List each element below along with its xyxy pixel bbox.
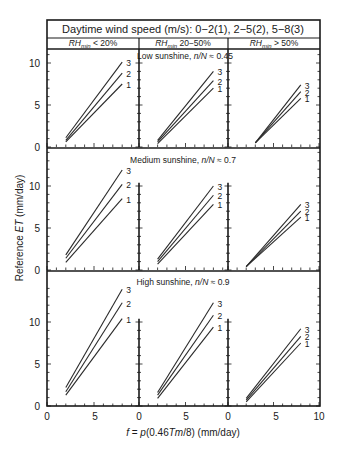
wind-series-line-3 [158,303,214,393]
y-tick-label: 0 [34,142,40,153]
wind-series-line-1 [66,84,122,142]
series-label: 1 [217,200,222,210]
column-header-rh-mid: RHmin 20−50% [155,38,211,49]
series-label: 1 [126,80,131,90]
y-tick-label: 5 [34,223,40,234]
y-tick-label: 0 [34,265,40,276]
wind-series-line-3 [255,85,300,143]
column-header-rh-low: RHmin < 20% [69,38,118,49]
x-tick-label: 0 [44,411,50,422]
wind-series-line-2 [66,303,122,392]
wind-series-line-1 [66,199,122,263]
series-label: 3 [305,81,310,91]
series-label: 3 [305,200,310,210]
x-tick-label: 5 [273,411,279,422]
series-label: 3 [217,67,222,77]
wind-series-line-2 [246,336,301,400]
wind-series-line-1 [158,327,214,398]
wind-series-line-1 [158,204,214,264]
column-header-rh-high: RHmin > 50% [250,38,299,49]
series-label: 1 [217,323,222,333]
series-label: 1 [126,315,131,325]
series-label: 2 [126,180,131,190]
wind-series-line-3 [158,71,214,140]
series-label: 1 [126,195,131,205]
x-tick-label: 5 [183,411,189,422]
header-title: Daytime wind speed (m/s): 0−2(1), 2−5(2)… [62,23,304,35]
x-tick-label: 5 [92,411,98,422]
wind-series-line-2 [66,73,122,140]
wind-series-line-3 [66,62,122,138]
series-label: 2 [217,77,222,87]
wind-series-line-1 [158,88,214,143]
wind-series-line-2 [158,195,214,261]
wind-series-line-3 [66,170,122,255]
row-title-medium-sunshine: Medium sunshine, n/N ≈ 0.7 [130,155,236,165]
y-axis-label: Reference ET (mm/day) [14,175,25,282]
series-label: 2 [217,191,222,201]
wind-series-line-2 [158,315,214,395]
plot-area: 0510051005100505051012312312312312312312… [29,49,325,422]
series-label: 2 [126,69,131,79]
wind-series-line-1 [255,98,300,143]
y-tick-label: 5 [34,359,40,370]
wind-series-line-2 [246,211,301,266]
series-label: 3 [305,325,310,335]
row-title-low-sunshine: Low sunshine, n/N ≈ 0.45 [137,51,233,61]
y-tick-label: 5 [34,100,40,111]
wind-series-line-3 [246,204,301,266]
y-tick-label: 10 [29,317,41,328]
x-tick-label: 0 [136,411,142,422]
y-tick-label: 0 [34,401,40,412]
wind-series-line-3 [158,186,214,259]
x-tick-label: 0 [225,411,231,422]
wind-series-line-2 [255,92,300,143]
x-tick-label: 10 [313,411,325,422]
wind-series-line-2 [66,184,122,258]
series-label: 3 [217,182,222,192]
wind-series-line-1 [66,319,122,395]
series-label: 2 [217,311,222,321]
series-label: 3 [126,58,131,68]
wind-series-line-1 [246,343,301,402]
y-tick-label: 10 [29,181,41,192]
wind-series-line-3 [246,329,301,399]
wind-series-line-2 [158,81,214,142]
y-tick-label: 10 [29,58,41,69]
series-label: 3 [126,285,131,295]
series-label: 3 [126,166,131,176]
series-label: 3 [217,299,222,309]
reference-et-chart: Daytime wind speed (m/s): 0−2(1), 2−5(2)… [0,0,343,450]
wind-series-line-3 [66,289,122,387]
wind-series-line-1 [246,217,301,267]
row-title-high-sunshine: High sunshine, n/N ≈ 0.9 [136,277,229,287]
series-label: 2 [126,299,131,309]
x-axis-label: f = p(0.46Tm/8) (mm/day) [126,427,240,438]
